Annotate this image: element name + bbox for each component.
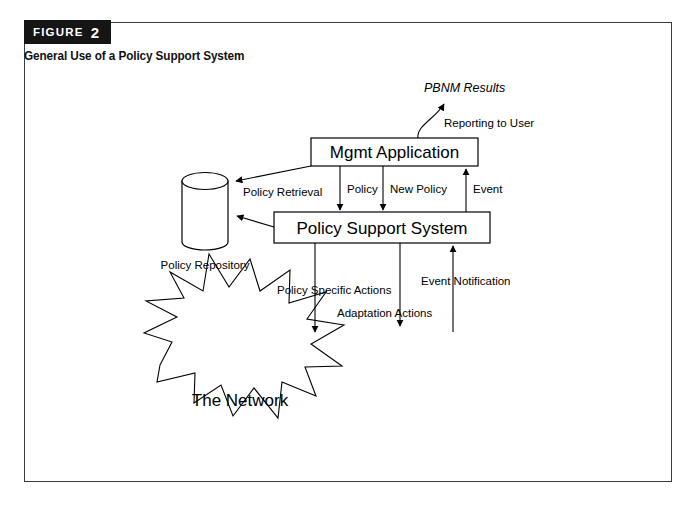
cylinder-body [182,181,228,250]
edge-event: Event [466,169,503,212]
node-network: The Network [144,254,344,418]
policy-retrieval-line [236,166,311,181]
network-label: The Network [192,391,289,410]
policy-label: Policy [347,183,378,195]
edge-policy: Policy [340,166,378,210]
policy-repository-label: Policy Repository [161,259,250,271]
event-notification-label: Event Notification [421,275,511,287]
policy-store-line [237,216,274,227]
adaptation-actions-label: Adaptation Actions [337,307,433,319]
figure-root: FIGURE2 General Use of a Policy Support … [0,0,699,508]
edge-event-notification: Event Notification [421,246,511,332]
policy-support-system-label: Policy Support System [296,219,467,238]
node-policy-repository: Policy Repository [161,173,250,272]
policy-retrieval-label: Policy Retrieval [243,186,322,198]
edge-policy-store [237,216,274,227]
figure-tag-badge: FIGURE2 [24,20,111,44]
node-policy-support-system: Policy Support System [274,212,490,243]
reporting-to-user-label: Reporting to User [444,117,534,129]
mgmt-application-label: Mgmt Application [330,143,459,162]
cylinder-top [182,173,228,190]
figure-subtitle: General Use of a Policy Support System [24,49,244,63]
policy-specific-actions-label: Policy Specific Actions [277,284,392,296]
node-mgmt-application: Mgmt Application [311,138,478,166]
new-policy-label: New Policy [390,183,447,195]
edge-reporting-to-user: Reporting to User PBNM Results [418,81,534,138]
figure-caption: FIGURE2 General Use of a Policy Support … [24,20,258,63]
edge-policy-retrieval: Policy Retrieval [236,166,322,198]
edge-new-policy: New Policy [383,166,447,210]
figure-tag-number: 2 [91,24,99,41]
figure-tag-word: FIGURE [33,26,84,38]
diagram-canvas: The Network Policy Repository Mgmt Appli… [24,22,672,482]
pbnm-results-label: PBNM Results [424,81,505,95]
event-label: Event [473,183,503,195]
reporting-to-user-curve [418,104,444,138]
